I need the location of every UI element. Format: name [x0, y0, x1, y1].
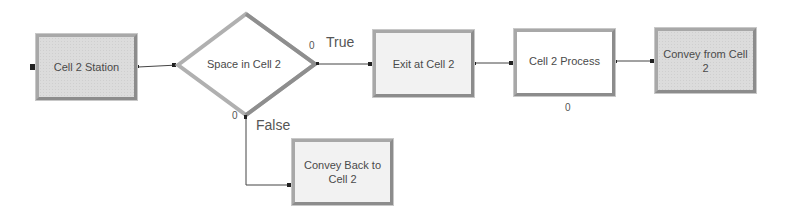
module-label: Exit at Cell 2: [393, 57, 455, 71]
false-branch-label: False: [256, 117, 290, 133]
module-label: Cell 2 Process: [529, 54, 600, 68]
true-branch-label: True: [326, 34, 354, 50]
cell2-station-module[interactable]: Cell 2 Station: [36, 34, 137, 100]
module-label: Cell 2 Station: [54, 60, 119, 74]
entry-port-icon[interactable]: [30, 64, 35, 70]
false-count: 0: [232, 110, 238, 121]
module-label: Convey from Cell 2: [662, 47, 749, 75]
process-count: 0: [565, 102, 571, 113]
exit-at-cell2-module[interactable]: Exit at Cell 2: [373, 30, 474, 97]
convey-from-cell2-module[interactable]: Convey from Cell 2: [655, 28, 756, 93]
true-count: 0: [309, 40, 315, 51]
decide-label: Space in Cell 2: [207, 58, 281, 70]
convey-back-to-cell2-module[interactable]: Convey Back to Cell 2: [292, 139, 393, 205]
module-label: Convey Back to Cell 2: [299, 158, 386, 186]
flowchart-canvas: Cell 2 Station Space in Cell 2 0 True 0 …: [0, 0, 788, 217]
cell2-process-module[interactable]: Cell 2 Process: [514, 29, 615, 96]
